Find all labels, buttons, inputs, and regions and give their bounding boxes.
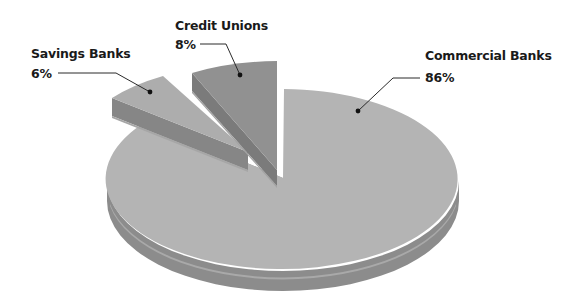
leader-dot-savings [148, 90, 153, 95]
label-savings-name: Savings Banks [31, 47, 131, 61]
label-credit-pct: 8% [175, 38, 196, 52]
leader-dot-commercial [356, 109, 361, 114]
label-commercial-pct: 86% [425, 71, 454, 85]
label-commercial-name: Commercial Banks [425, 49, 552, 63]
label-credit-name: Credit Unions [175, 19, 268, 33]
leader-dot-credit [238, 73, 243, 78]
label-savings-pct: 6% [31, 67, 52, 81]
